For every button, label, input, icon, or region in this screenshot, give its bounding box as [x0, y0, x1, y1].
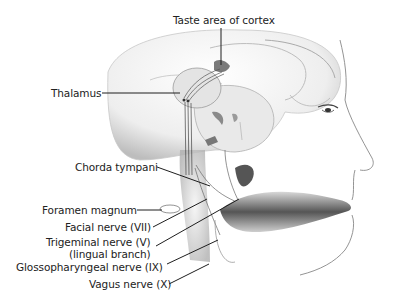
- label-taste-cortex: Taste area of cortex: [173, 14, 275, 26]
- label-trigeminal-nerve: Trigeminal nerve (V): [46, 236, 151, 248]
- foramen-magnum-shape: [160, 205, 180, 213]
- anatomy-figure: Taste area of cortex Thalamus Chorda tym…: [0, 0, 402, 307]
- label-glossopharyngeal-nerve: Glossopharyngeal nerve (IX): [16, 261, 163, 273]
- label-vagus-nerve: Vagus nerve (X): [89, 278, 171, 290]
- label-thalamus: Thalamus: [51, 87, 101, 99]
- label-trigeminal-sub: (lingual branch): [69, 248, 151, 260]
- tongue: [220, 192, 351, 232]
- label-chorda-tympani: Chorda tympani: [75, 161, 158, 173]
- label-foramen-magnum: Foramen magnum: [42, 204, 137, 216]
- label-facial-nerve: Facial nerve (VII): [65, 221, 151, 233]
- brain: [108, 30, 341, 160]
